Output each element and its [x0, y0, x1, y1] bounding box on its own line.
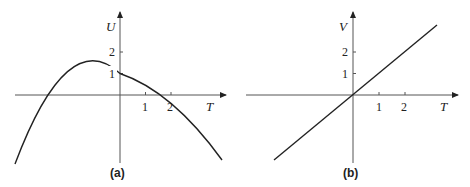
x-tick-label-2-b: 2 — [401, 100, 407, 114]
y-axis-label-b: V — [339, 19, 349, 34]
x-tick-label-1-b: 1 — [376, 100, 382, 114]
curve-a — [15, 61, 222, 164]
x-axis-label-b: T — [440, 99, 448, 114]
chart-a: 1 2 1 2 U T (a) — [15, 12, 226, 180]
y-tick-label-1-a: 1 — [109, 67, 115, 81]
line-b — [274, 25, 437, 160]
y-axis-label-a: U — [106, 19, 117, 34]
panel-label-a: (a) — [110, 166, 125, 180]
x-tick-label-1-a: 1 — [142, 100, 148, 114]
y-tick-label-2-a: 2 — [109, 45, 115, 59]
y-tick-label-1-b: 1 — [342, 67, 348, 81]
y-tick-label-2-b: 2 — [342, 45, 348, 59]
x-axis-label-a: T — [206, 99, 214, 114]
chart-b: 1 2 1 2 V T (b) — [246, 12, 458, 180]
x-tick-label-2-a: 2 — [167, 100, 173, 114]
figure: 1 2 1 2 U T (a) 1 2 1 2 V T (b) — [0, 0, 470, 187]
panel-label-b: (b) — [343, 166, 358, 180]
